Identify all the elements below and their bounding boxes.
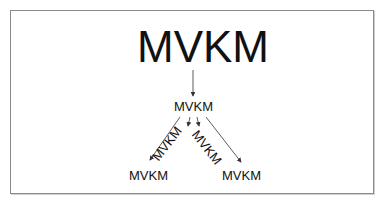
arrow-middle-to-rotated-right [197,117,199,126]
root-node-label: MVKM [137,25,269,69]
bottom-right-node-label: MVKM [222,169,261,182]
bottom-left-node-label: MVKM [129,169,168,182]
middle-node-label: MVKM [174,100,213,113]
arrow-middle-to-rotated-left [188,117,190,126]
